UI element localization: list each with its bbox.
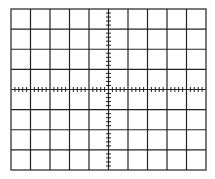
oscilloscope-graticule (0, 0, 215, 179)
